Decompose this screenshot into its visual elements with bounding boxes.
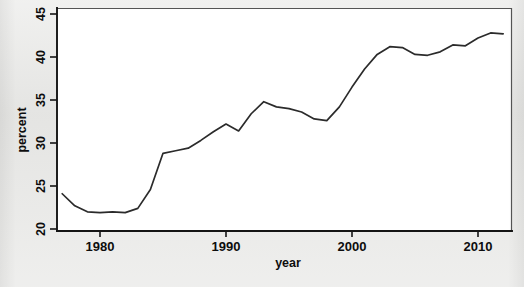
x-tick-label: 1990 xyxy=(212,239,241,254)
x-axis-title: year xyxy=(275,256,301,270)
chart-container: 45 40 35 30 25 20 percent 1980 1990 2000… xyxy=(0,0,524,287)
x-tick-label: 2010 xyxy=(464,239,493,254)
plot-area xyxy=(57,8,512,231)
x-tick-label: 1980 xyxy=(86,239,115,254)
line-chart: 45 40 35 30 25 20 percent 1980 1990 2000… xyxy=(0,0,524,287)
y-tick-label: 25 xyxy=(34,179,48,193)
y-tick-label: 30 xyxy=(34,136,48,150)
y-tick-label: 35 xyxy=(34,93,48,107)
y-axis-ticks xyxy=(50,14,57,229)
y-axis-title: percent xyxy=(15,107,29,153)
y-tick-label: 40 xyxy=(34,50,48,64)
x-axis-tick-labels: 1980 1990 2000 2010 xyxy=(86,239,493,254)
x-tick-label: 2000 xyxy=(338,239,367,254)
y-axis-tick-labels: 45 40 35 30 25 20 xyxy=(34,7,48,236)
y-tick-label: 45 xyxy=(34,7,48,21)
y-tick-label: 20 xyxy=(34,222,48,236)
